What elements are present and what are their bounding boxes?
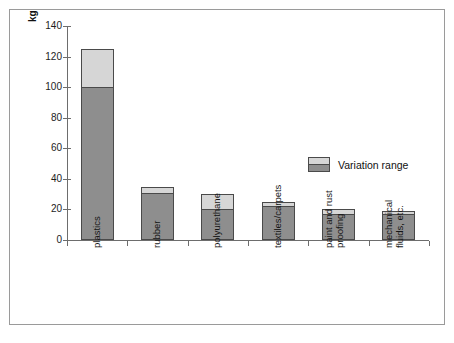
y-axis-tick xyxy=(63,118,71,119)
legend-label: Variation range xyxy=(338,159,408,171)
bar-variation-segment xyxy=(81,49,114,87)
y-axis-tick-label: 0 xyxy=(36,234,62,245)
legend-swatch-variation-range xyxy=(308,157,330,172)
x-axis-tick xyxy=(188,241,189,246)
x-axis-category-label: rubber xyxy=(152,221,163,248)
y-axis-tick xyxy=(63,179,71,180)
y-axis-tick-label: 100 xyxy=(36,81,62,92)
x-axis-category-label-line: fluids, etc. xyxy=(395,200,406,248)
x-axis-tick xyxy=(308,241,309,246)
x-axis-tick xyxy=(67,241,68,246)
y-axis-tick-label: 120 xyxy=(36,51,62,62)
x-axis-category-label-line: textiles/carpets xyxy=(272,185,283,248)
x-axis-category-label-line: plastics xyxy=(91,216,102,248)
y-axis-tick xyxy=(63,57,71,58)
x-axis-category-label-line: proofing xyxy=(335,190,346,248)
legend: Variation range xyxy=(308,157,408,172)
y-axis-tick xyxy=(63,87,71,88)
y-axis-tick xyxy=(63,26,71,27)
y-axis-tick xyxy=(63,209,71,210)
y-axis-tick-label: 140 xyxy=(36,20,62,31)
x-axis-category-label: mechanicalfluids, etc. xyxy=(384,200,405,248)
y-axis-tick-label: 80 xyxy=(36,112,62,123)
x-axis-tick xyxy=(369,241,370,246)
x-axis-category-label: plastics xyxy=(92,216,103,248)
x-axis-category-label: polyurethane xyxy=(212,193,223,248)
x-axis-tick xyxy=(248,241,249,246)
x-axis-category-label-line: rubber xyxy=(151,221,162,248)
y-axis-tick-label: 40 xyxy=(36,173,62,184)
y-axis-tick-label: 20 xyxy=(36,203,62,214)
y-axis-tick-label: 60 xyxy=(36,142,62,153)
y-axis-tick xyxy=(63,148,71,149)
x-axis-category-label-line: polyurethane xyxy=(211,193,222,248)
chart-figure: kg 020406080100120140 plasticsrubberpoly… xyxy=(0,0,454,343)
plot-area: kg 020406080100120140 plasticsrubberpoly… xyxy=(0,0,454,343)
x-axis-tick xyxy=(127,241,128,246)
x-axis-category-label-line: paint and rust xyxy=(324,190,335,248)
x-axis-category-label: paint and rustproofing xyxy=(324,190,345,248)
x-axis-category-label: textiles/carpets xyxy=(273,185,284,248)
x-axis-tick xyxy=(429,241,430,246)
